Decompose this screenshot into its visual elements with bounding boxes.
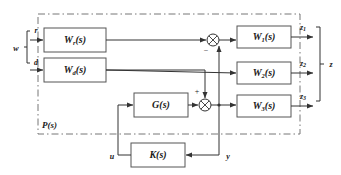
block-W3-label: W3(s) <box>253 100 276 112</box>
diagram-svg: P(s) w r d Wr(s) Wd(s) top summing junct… <box>0 0 341 175</box>
sum-bottom-plus-sign: + <box>195 87 200 96</box>
plant-label: P(s) <box>42 120 57 130</box>
signal-label-z2-sub: 2 <box>302 63 306 69</box>
block-W3-suffix: (s) <box>265 100 276 112</box>
block-W2-suffix: (s) <box>265 67 276 79</box>
block-W1-suffix: (s) <box>265 31 276 43</box>
block-W1-label: W1(s) <box>253 31 276 43</box>
signal-label-z2: z2 <box>299 59 306 69</box>
plant-label-suffix: (s) <box>48 120 58 130</box>
sum-top-minus-sign: − <box>204 46 209 55</box>
block-Wd-suffix: (s) <box>76 64 87 76</box>
signal-label-z3: z3 <box>299 92 306 102</box>
signal-label-z1-sub: 1 <box>303 27 306 33</box>
block-G-label: G(s) <box>152 99 170 111</box>
wire-y-to-K <box>186 105 219 155</box>
block-K-suffix: (s) <box>156 149 167 161</box>
signal-label-z: z <box>328 60 333 69</box>
w-brace <box>24 31 30 63</box>
z-brace <box>316 27 324 101</box>
block-diagram-canvas: P(s) w r d Wr(s) Wd(s) top summing junct… <box>0 0 341 175</box>
signal-label-z1: z1 <box>299 23 306 33</box>
signal-label-y: y <box>225 152 230 161</box>
block-Wd-label: Wd(s) <box>64 64 87 76</box>
signal-label-w: w <box>13 44 19 53</box>
block-Wr-suffix: (s) <box>75 34 86 46</box>
signal-label-z3-sub: 3 <box>302 96 306 102</box>
block-W2-label: W2(s) <box>253 67 276 79</box>
block-K-label: K(s) <box>148 149 166 161</box>
block-G-suffix: (s) <box>159 99 170 111</box>
signal-label-u: u <box>110 152 115 161</box>
block-Wr-label: Wr(s) <box>64 34 86 46</box>
